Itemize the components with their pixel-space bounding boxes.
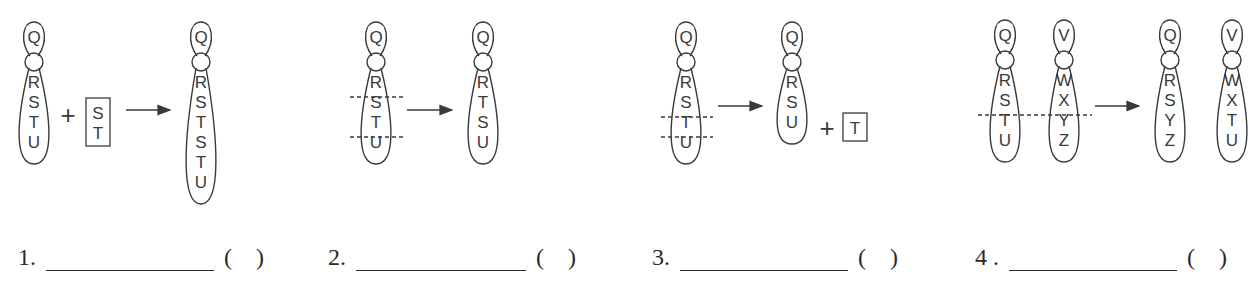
chromosome-result: QRTSU — [468, 22, 498, 164]
answer-2: 2. ( ) — [328, 244, 576, 271]
chromosome-original-1: QRSTU — [990, 20, 1020, 162]
chromosome-original: QRSTU — [19, 22, 49, 164]
gene-label: S — [680, 93, 691, 112]
gene-label: S — [477, 113, 488, 132]
answer-blank[interactable] — [46, 246, 214, 271]
gene-label: R — [28, 73, 40, 92]
chromosome-result-1: QRSYZ — [1155, 20, 1185, 162]
gene-label: T — [93, 124, 103, 143]
gene-label: T — [29, 113, 39, 132]
answer-blank[interactable] — [356, 246, 526, 271]
gene-label: U — [680, 133, 692, 152]
centromere — [474, 53, 492, 71]
centromere — [677, 53, 695, 71]
gene-label: Q — [369, 28, 382, 47]
answer-parens[interactable]: ( ) — [536, 244, 576, 271]
centromere — [1055, 51, 1073, 69]
gene-label: W — [1224, 71, 1240, 90]
gene-label: Q — [1163, 26, 1176, 45]
gene-label: R — [786, 73, 798, 92]
gene-label: U — [999, 131, 1011, 150]
answer-4: 4 . ( ) — [975, 244, 1227, 271]
gene-label: Y — [1058, 111, 1069, 130]
gene-label: U — [195, 173, 207, 192]
gene-label: X — [1058, 91, 1069, 110]
gene-label: S — [999, 91, 1010, 110]
answer-number: 4 . — [975, 244, 999, 271]
answer-number: 2. — [328, 244, 346, 271]
centromere — [996, 51, 1014, 69]
gene-label: U — [477, 133, 489, 152]
fragment-box: ST — [86, 98, 110, 146]
gene-label: T — [1227, 111, 1237, 130]
gene-label: V — [1226, 26, 1238, 45]
answer-parens[interactable]: ( ) — [1187, 244, 1227, 271]
plus-sign: + — [819, 113, 834, 143]
chromosome-original: QRSTU — [361, 22, 391, 164]
gene-label: Q — [194, 28, 207, 47]
gene-label: X — [1226, 91, 1237, 110]
gene-label: U — [28, 133, 40, 152]
gene-label: Q — [476, 28, 489, 47]
answer-1: 1. ( ) — [18, 244, 264, 271]
centromere — [783, 53, 801, 71]
answer-3: 3. ( ) — [652, 244, 898, 271]
fragment-box: T — [843, 113, 867, 141]
centromere — [1223, 51, 1241, 69]
gene-label: V — [1058, 26, 1070, 45]
centromere — [367, 53, 385, 71]
gene-label: R — [680, 73, 692, 92]
gene-label: R — [999, 71, 1011, 90]
gene-label: S — [195, 93, 206, 112]
centromere — [25, 53, 43, 71]
gene-label: T — [478, 93, 488, 112]
gene-label: Q — [27, 28, 40, 47]
gene-label: T — [1000, 111, 1010, 130]
answer-blank[interactable] — [680, 246, 848, 271]
gene-label: T — [681, 113, 691, 132]
chromosome-original-2: VWXYZ — [1049, 20, 1079, 162]
gene-label: R — [477, 73, 489, 92]
gene-label: Z — [1059, 131, 1069, 150]
gene-label: U — [786, 113, 798, 132]
gene-label: R — [1164, 71, 1176, 90]
chromosome-result: QRSU — [777, 22, 807, 144]
gene-label: U — [1226, 131, 1238, 150]
gene-label: U — [370, 133, 382, 152]
chromosome-result-2: VWXTU — [1217, 20, 1247, 162]
gene-label: T — [196, 153, 206, 172]
gene-label: S — [370, 93, 381, 112]
gene-label: S — [195, 133, 206, 152]
gene-label: T — [371, 113, 381, 132]
gene-label: S — [1164, 91, 1175, 110]
gene-label: S — [92, 104, 103, 123]
chromosome-original: QRSTU — [671, 22, 701, 164]
gene-label: S — [786, 93, 797, 112]
gene-label: Y — [1164, 111, 1175, 130]
gene-label: Q — [998, 26, 1011, 45]
gene-label: R — [370, 73, 382, 92]
answer-number: 1. — [18, 244, 36, 271]
gene-label: T — [850, 119, 860, 138]
answer-parens[interactable]: ( ) — [858, 244, 898, 271]
plus-sign: + — [60, 100, 75, 130]
answer-parens[interactable]: ( ) — [224, 244, 264, 271]
gene-label: S — [28, 93, 39, 112]
gene-label: Q — [679, 28, 692, 47]
answer-number: 3. — [652, 244, 670, 271]
gene-label: Z — [1165, 131, 1175, 150]
centromere — [1161, 51, 1179, 69]
gene-label: T — [196, 113, 206, 132]
answer-blank[interactable] — [1009, 246, 1177, 271]
centromere — [192, 53, 210, 71]
gene-label: Q — [785, 28, 798, 47]
chromosome-result: QRSTSTU — [186, 22, 216, 204]
gene-label: R — [195, 73, 207, 92]
gene-label: W — [1056, 71, 1072, 90]
